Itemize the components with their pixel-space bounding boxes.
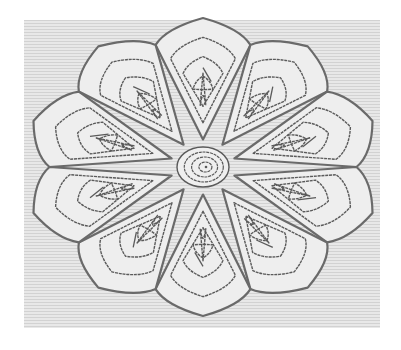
flower-center-spiral: [177, 147, 229, 187]
embroidery-photo: [0, 0, 401, 350]
